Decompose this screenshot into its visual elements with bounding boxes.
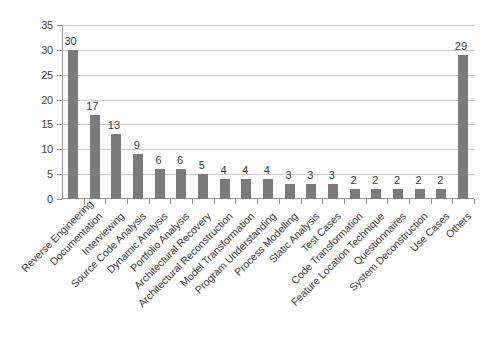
category-label: Reverse Engineering — [19, 211, 82, 274]
category-label: Code Transformation — [102, 211, 365, 360]
bar-value-label: 3 — [329, 170, 335, 181]
category-label: Architectural Reconstruction — [64, 211, 235, 360]
category-label: Others — [134, 211, 473, 360]
x-tick-mark — [366, 199, 367, 204]
x-tick-mark — [192, 199, 193, 204]
bar-chart: 35 30 25 20 15 10 5 0 301713966544433322… — [0, 0, 491, 360]
x-tick-mark — [279, 199, 280, 204]
bar-slot: 2 — [409, 25, 431, 199]
bar[interactable] — [198, 174, 208, 199]
x-tick-mark — [452, 199, 453, 204]
bar-value-label: 2 — [351, 175, 357, 186]
category-label: System Deconstruction — [121, 211, 429, 360]
bar-slot: 6 — [149, 25, 171, 199]
x-tick-mark — [409, 199, 410, 204]
category-label: Feature Location Technique — [108, 211, 386, 360]
bar[interactable] — [220, 179, 230, 199]
x-tick-mark — [170, 199, 171, 204]
bar[interactable] — [241, 179, 251, 199]
bar-value-label: 2 — [372, 175, 378, 186]
category-label: Source Code Analysis — [38, 211, 147, 320]
bar-value-label: 6 — [177, 155, 183, 166]
y-tick-label-0: 0 — [28, 194, 53, 205]
x-tick-mark — [301, 199, 302, 204]
category-label: Process Modelling — [83, 211, 299, 360]
bar[interactable] — [133, 154, 143, 199]
y-tick-label-5: 5 — [28, 169, 53, 180]
bar-value-label: 3 — [285, 170, 291, 181]
bar-slot: 13 — [105, 25, 127, 199]
bar[interactable] — [176, 169, 186, 199]
bar[interactable] — [350, 189, 360, 199]
x-tick-mark — [127, 199, 128, 204]
bar[interactable] — [415, 189, 425, 199]
bar-value-label: 17 — [86, 101, 98, 112]
y-tick-label-15: 15 — [28, 119, 53, 130]
bar-slot: 4 — [214, 25, 236, 199]
bar[interactable] — [393, 189, 403, 199]
x-tick-mark — [105, 199, 106, 204]
bars-layer: 30171396654443332222229 — [62, 25, 474, 199]
bar-slot: 2 — [344, 25, 366, 199]
y-tick-label-20: 20 — [28, 95, 53, 106]
bar[interactable] — [285, 184, 295, 199]
x-tick-mark — [214, 199, 215, 204]
bar-value-label: 13 — [108, 120, 120, 131]
bar-value-label: 9 — [134, 140, 140, 151]
bar[interactable] — [436, 189, 446, 199]
bar-value-label: 30 — [64, 36, 76, 47]
bar-slot: 4 — [257, 25, 279, 199]
category-label: Test Cases — [96, 211, 343, 360]
x-tick-mark — [235, 199, 236, 204]
bar[interactable] — [263, 179, 273, 199]
bar-slot: 29 — [452, 25, 474, 199]
x-tick-mark — [257, 199, 258, 204]
x-tick-mark — [387, 199, 388, 204]
category-label: Model Transformation — [70, 211, 256, 360]
y-tick-label-35: 35 — [28, 20, 53, 31]
category-label: Use Cases — [127, 211, 451, 360]
bar-slot: 2 — [431, 25, 453, 199]
x-tick-mark — [344, 199, 345, 204]
bar-value-label: 6 — [155, 155, 161, 166]
bar-slot: 3 — [279, 25, 301, 199]
bar-value-label: 5 — [199, 160, 205, 171]
bar-slot: 3 — [301, 25, 323, 199]
y-tick-label-25: 25 — [28, 70, 53, 81]
bar[interactable] — [90, 115, 100, 200]
x-tick-mark — [149, 199, 150, 204]
category-label: Architectural Recovery — [57, 211, 212, 360]
bar-value-label: 4 — [242, 165, 248, 176]
bar[interactable] — [306, 184, 316, 199]
x-tick-mark — [431, 199, 432, 204]
bar-value-label: 4 — [264, 165, 270, 176]
x-tick-mark — [84, 199, 85, 204]
category-label: Questionnaires — [115, 211, 408, 360]
category-label: Portfolio Analysis — [51, 211, 191, 351]
bar[interactable] — [111, 134, 121, 199]
category-label: Dynamic Analysis — [45, 211, 170, 336]
bar-slot: 3 — [322, 25, 344, 199]
bar[interactable] — [68, 50, 78, 199]
bar-value-label: 4 — [220, 165, 226, 176]
x-tick-mark — [474, 199, 475, 204]
bar[interactable] — [328, 184, 338, 199]
bar-slot: 2 — [387, 25, 409, 199]
bar-slot: 2 — [366, 25, 388, 199]
bar[interactable] — [371, 189, 381, 199]
bar[interactable] — [155, 169, 165, 199]
bar-slot: 5 — [192, 25, 214, 199]
y-tick-label-10: 10 — [28, 144, 53, 155]
x-tick-mark — [322, 199, 323, 204]
bar-slot: 4 — [235, 25, 257, 199]
bar-value-label: 2 — [437, 175, 443, 186]
category-label: Documentation — [26, 211, 104, 289]
y-tick-mark-0 — [57, 199, 62, 200]
bar-slot: 6 — [170, 25, 192, 199]
bar-slot: 17 — [84, 25, 106, 199]
bar-slot: 30 — [62, 25, 84, 199]
bar[interactable] — [458, 55, 468, 199]
bar-value-label: 3 — [307, 170, 313, 181]
category-label: Static Analysis — [89, 211, 321, 360]
category-label: Interviewing — [32, 211, 126, 305]
